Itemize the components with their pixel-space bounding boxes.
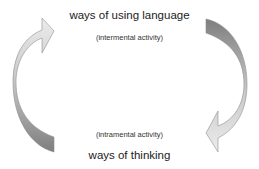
bottom-node-subtitle: (intramental activity) (0, 130, 259, 139)
cycle-arrows (0, 0, 259, 169)
top-node-title: ways of using language (0, 9, 259, 21)
bottom-node-title: ways of thinking (0, 149, 259, 161)
top-node-subtitle: (intermental activity) (0, 33, 259, 42)
